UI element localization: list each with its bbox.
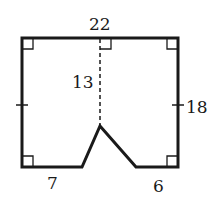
- right-angle-mark-top-left: [22, 38, 33, 49]
- label-bottom-right: 6: [153, 178, 164, 195]
- right-angle-mark-top-middle: [100, 38, 111, 49]
- right-angle-mark-bottom-right: [167, 156, 178, 167]
- label-top-width: 22: [89, 16, 111, 33]
- diagram-canvas: 22 13 18 7 6: [0, 0, 224, 209]
- label-right-side: 18: [186, 99, 208, 116]
- label-bottom-left: 7: [47, 175, 58, 192]
- right-angle-mark-bottom-left: [22, 156, 33, 167]
- label-dashed-height: 13: [72, 74, 94, 91]
- right-angle-mark-top-right: [167, 38, 178, 49]
